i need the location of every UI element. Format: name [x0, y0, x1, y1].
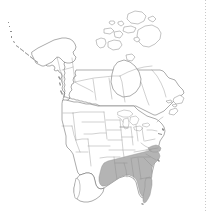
baffin-island [137, 25, 161, 47]
state-border-new-england [157, 117, 163, 122]
hudson-bay-group [111, 60, 141, 97]
distribution-map-figure: North America Distribution Map Outline m… [0, 0, 208, 213]
aleutian-island-1 [8, 22, 9, 23]
alaska-group [32, 38, 76, 82]
arctic-islet-a [118, 21, 124, 26]
aleutian-island-6 [16, 45, 19, 48]
north-america-map: North America Distribution Map Outline m… [0, 0, 208, 213]
bottom-edge-artifact [0, 212, 208, 213]
southampton-island [126, 54, 135, 61]
ellesmere-island [127, 11, 146, 24]
florida-keys [141, 203, 144, 205]
aleutian-island-2 [9, 26, 10, 27]
vancouver-island [60, 90, 63, 95]
prince-of-wales-island [114, 31, 123, 38]
nova-scotia [169, 108, 178, 115]
arctic-islet-c [148, 16, 156, 22]
aleutian-island-5 [13, 41, 15, 43]
aleutian-island-7 [20, 48, 24, 52]
arctic-archipelago-group [96, 11, 161, 61]
victoria-island [108, 40, 122, 50]
alexander-archipelago [58, 76, 61, 80]
melville-island [104, 28, 114, 34]
banks-island [96, 38, 106, 48]
prince-edward-island [172, 104, 177, 107]
queen-charlotte-islands [59, 82, 61, 86]
aleutian-island-8 [25, 52, 29, 56]
hudson-bay-coastline [111, 60, 141, 97]
aleutian-island-4 [11, 36, 12, 38]
devon-island [123, 26, 136, 33]
aleutian-island-3 [10, 31, 12, 32]
arctic-islet-b [109, 21, 115, 25]
right-edge-scan-artifact [205, 0, 206, 213]
